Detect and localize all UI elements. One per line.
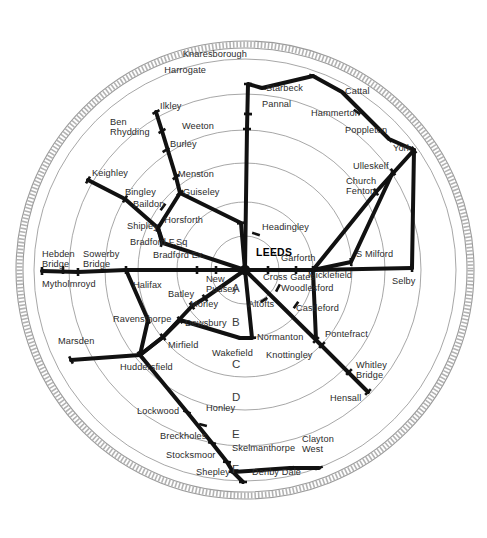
station-label-whitley-bridge: Whitley Bridge <box>356 361 387 380</box>
station-tick-wakefield <box>236 338 244 339</box>
station-label-mirfield: Mirfield <box>168 341 198 351</box>
station-label-halifax: Halifax <box>133 281 162 291</box>
station-tick-stocksmoor <box>223 462 231 463</box>
station-label-horsforth: Horsforth <box>164 216 203 226</box>
ring-label-D: D <box>232 391 240 403</box>
rail-network-diagram: KnaresboroughHarrogateStarbeckPannalWeet… <box>0 0 487 538</box>
station-label-ravensthorpe: Ravensthorpe <box>113 315 171 325</box>
station-label-weeton: Weeton <box>182 122 214 132</box>
station-tick-normanton <box>248 338 256 339</box>
station-label-burley: Burley <box>170 140 197 150</box>
station-node-lockwood <box>183 410 190 413</box>
station-tick-woodlesford <box>276 284 280 291</box>
station-node-woodlesford <box>276 284 280 291</box>
station-label-denby-dale: Denby Dale <box>252 468 301 478</box>
station-tick-headingley <box>252 233 260 235</box>
station-node-s-milford <box>351 258 352 266</box>
station-tick-s-milford <box>351 258 352 266</box>
station-tick-marsden <box>69 356 73 363</box>
station-label-bradford-fsq: Bradford F.Sq <box>130 238 187 248</box>
rail-line-huddersfield-marsden <box>71 355 140 360</box>
station-label-pannal: Pannal <box>262 100 291 110</box>
station-node-headingley <box>252 233 260 235</box>
station-label-batley: Batley <box>168 290 194 300</box>
station-label-baildon: Baildon <box>133 200 164 210</box>
station-node-normanton <box>248 338 256 339</box>
station-label-dewsbury: Dewsbury <box>185 319 227 329</box>
station-label-hammerton: Hammerton <box>311 109 360 119</box>
station-label-ben-rhydding: Ben Rhydding <box>110 118 150 137</box>
station-label-selby: Selby <box>392 277 415 287</box>
station-label-keighley: Keighley <box>92 169 128 179</box>
station-label-skelmanthorpe: Skelmanthorpe <box>232 444 295 454</box>
station-node-brockholes <box>208 442 216 443</box>
station-label-stocksmoor: Stocksmoor <box>166 451 216 461</box>
station-label-knottingley: Knottingley <box>266 351 313 361</box>
station-label-honley: Honley <box>206 404 235 414</box>
station-label-shepley: Shepley <box>196 468 230 478</box>
station-label-clayton-west: Clayton West <box>302 435 334 454</box>
station-label-harrogate: Harrogate <box>164 66 206 76</box>
station-label-mytholmroyd: Mytholmroyd <box>42 280 96 290</box>
station-label-headingley: Headingley <box>262 223 309 233</box>
station-label-guiseley: Guiseley <box>183 188 220 198</box>
ring-label-B: B <box>232 316 240 328</box>
hub-label-leeds: LEEDS <box>256 248 292 258</box>
station-label-morley: Morley <box>190 300 218 310</box>
station-label-hensall: Hensall <box>330 394 361 404</box>
station-label-huddersfield: Huddersfield <box>120 363 173 373</box>
station-label-starbeck: Starbeck <box>266 84 303 94</box>
station-label-knaresborough: Knaresborough <box>183 50 247 60</box>
station-label-ilkley: Ilkley <box>160 102 182 112</box>
ring-label-F: F <box>232 463 239 475</box>
station-label-pontefract: Pontefract <box>325 330 368 340</box>
station-label-s-milford: S Milford <box>356 250 393 260</box>
station-node-wakefield <box>236 338 244 339</box>
station-tick-horsforth <box>237 223 245 224</box>
station-label-hebden-bridge: Hebden Bridge <box>42 250 75 269</box>
station-tick-brockholes <box>208 442 216 443</box>
station-node-horsforth <box>237 223 245 224</box>
hub-node <box>240 265 250 275</box>
station-tick-starbeck <box>258 88 266 89</box>
rail-line-leeds-new-pudsey-bradford <box>42 270 245 272</box>
station-label-church-fenton: Church Fenton <box>346 177 376 196</box>
station-tick-lockwood <box>183 410 190 413</box>
station-label-cattal: Cattal <box>345 87 370 97</box>
station-node-stocksmoor <box>223 462 231 463</box>
station-label-cross-gates: Cross Gates <box>263 273 315 283</box>
station-label-altofts: Altofts <box>248 300 274 310</box>
station-node-starbeck <box>258 88 266 89</box>
rail-line-york-selby <box>412 150 414 268</box>
ring-label-E: E <box>232 428 240 440</box>
station-label-normanton: Normanton <box>257 333 303 343</box>
station-label-poppleton: Poppleton <box>345 126 387 136</box>
station-node-marsden <box>69 356 73 363</box>
station-label-brockholes: Breckholes <box>160 432 206 442</box>
station-label-lockwood: Lockwood <box>137 407 179 417</box>
ring-label-A: A <box>232 282 240 294</box>
ring-label-C: C <box>232 358 240 370</box>
station-label-woodlesford: Woodlesford <box>281 284 334 294</box>
station-label-menston: Menston <box>178 170 214 180</box>
station-label-bradford-ex: Bradford Ex. <box>153 251 205 261</box>
station-label-sowerby-bridge: Sowerby Bridge <box>83 250 119 269</box>
station-label-york: York <box>393 144 411 154</box>
station-label-marsden: Marsden <box>58 337 94 347</box>
station-label-castleford: Castleford <box>296 304 339 314</box>
station-label-shipley: Shipley <box>127 222 158 232</box>
station-label-ulleskelf: Ulleskelf <box>353 162 389 172</box>
station-label-bingley: Bingley <box>125 188 156 198</box>
leeds-hub-dot <box>240 265 250 275</box>
